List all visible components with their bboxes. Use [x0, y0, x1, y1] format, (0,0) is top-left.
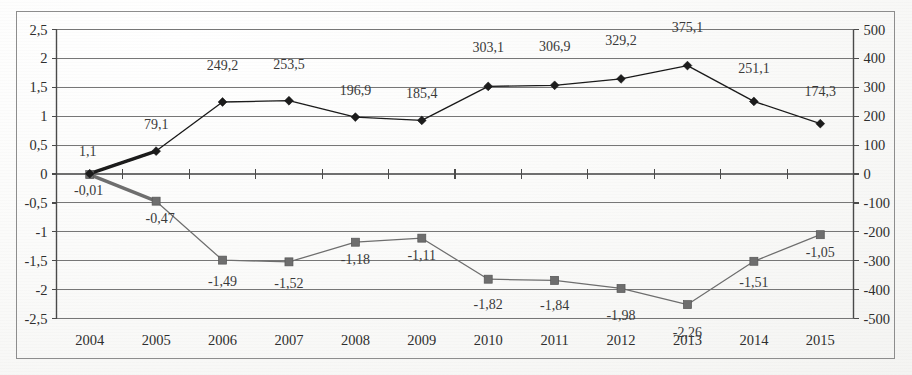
series-diamond-line	[90, 66, 821, 174]
series-square-line	[90, 175, 821, 305]
square-marker	[285, 258, 293, 266]
square-marker	[219, 256, 227, 264]
series-square-data-label: -1,82	[474, 297, 503, 312]
series-diamond-data-label: 329,2	[605, 33, 637, 48]
left-tick-label: 0	[40, 166, 47, 182]
series-square-data-label: -1,84	[540, 298, 569, 313]
series-diamond-data-label: 303,1	[472, 40, 504, 55]
x-axis-category-labels: 2004200520062007200820092010201120122013…	[75, 332, 835, 348]
right-tick-label: 500	[864, 22, 886, 38]
left-axis-ticks	[52, 30, 57, 319]
square-marker	[351, 238, 359, 246]
right-tick-label: 400	[864, 50, 886, 66]
diamond-marker	[550, 81, 559, 90]
right-tick-label: 100	[864, 137, 886, 153]
series-square-data-label: -1,05	[806, 245, 835, 260]
series-diamond-data-label: 196,9	[340, 83, 372, 98]
series-diamond-polyline	[156, 66, 820, 152]
square-marker	[484, 275, 492, 283]
diamond-marker	[218, 98, 227, 107]
diamond-marker	[484, 82, 493, 91]
diamond-marker	[285, 96, 294, 105]
line-chart: 2,521,510,50-0,5-1-1,5-2-2,5 50040030020…	[0, 0, 912, 375]
right-tick-label: -300	[864, 253, 891, 269]
series-diamond-data-label: 185,4	[406, 86, 438, 101]
right-tick-label: -400	[864, 282, 891, 298]
right-tick-label: -500	[864, 311, 891, 327]
left-tick-label: 2	[40, 50, 47, 66]
right-tick-label: 0	[864, 166, 871, 182]
diamond-marker	[816, 119, 825, 128]
left-tick-label: 1	[40, 108, 47, 124]
square-marker	[750, 257, 758, 265]
x-category-label: 2010	[474, 332, 503, 348]
x-category-label: 2011	[540, 332, 568, 348]
series-square-data-label: -0,47	[146, 211, 175, 226]
x-category-label: 2004	[75, 332, 105, 348]
diamond-marker	[683, 61, 692, 70]
series-diamond-data-labels: 1,179,1249,2253,5196,9185,4303,1306,9329…	[79, 20, 836, 159]
left-tick-label: 0,5	[29, 137, 47, 153]
left-tick-label: -2,5	[25, 311, 48, 327]
x-category-label: 2015	[806, 332, 835, 348]
square-marker	[418, 234, 426, 242]
right-tick-label: 200	[864, 108, 886, 124]
diamond-marker	[417, 116, 426, 125]
chart-container: 2,521,510,50-0,5-1-1,5-2-2,5 50040030020…	[0, 0, 912, 375]
left-tick-label: -1	[35, 224, 47, 240]
right-tick-label: -200	[864, 224, 891, 240]
series-square-data-label: -0,01	[74, 183, 103, 198]
series-diamond-data-label: 375,1	[672, 20, 704, 35]
right-axis-ticks	[854, 30, 859, 319]
right-tick-label: 300	[864, 79, 886, 95]
series-diamond-data-label: 251,1	[738, 61, 770, 76]
diamond-marker	[617, 74, 626, 83]
x-category-label: 2006	[208, 332, 237, 348]
x-category-label: 2008	[341, 332, 370, 348]
left-tick-label: 1,5	[29, 79, 47, 95]
square-marker	[551, 276, 559, 284]
series-diamond-data-label: 249,2	[207, 58, 239, 73]
left-tick-label: 2,5	[29, 22, 47, 38]
right-axis-tick-labels: 5004003002001000-100-200-300-400-500	[864, 22, 891, 327]
series-square-data-label: -1,18	[341, 252, 370, 267]
x-category-label: 2007	[274, 332, 303, 348]
x-category-label: 2012	[607, 332, 636, 348]
series-diamond-data-label: 306,9	[539, 39, 571, 54]
series-square-data-label: -1,52	[274, 276, 303, 291]
series-diamond-data-label: 174,3	[805, 84, 837, 99]
diamond-marker	[351, 113, 360, 122]
series-diamond-markers	[85, 61, 824, 178]
series-square-data-label: -1,11	[407, 248, 436, 263]
square-marker	[683, 301, 691, 309]
right-tick-label: -100	[864, 195, 891, 211]
left-tick-label: -2	[35, 282, 47, 298]
left-tick-label: -1,5	[25, 253, 48, 269]
diamond-marker	[749, 97, 758, 106]
series-diamond-data-label: 1,1	[79, 144, 97, 159]
square-marker	[816, 231, 824, 239]
square-marker	[617, 284, 625, 292]
left-axis-tick-labels: 2,521,510,50-0,5-1-1,5-2-2,5	[25, 22, 48, 327]
x-category-label: 2014	[739, 332, 769, 348]
left-tick-label: -0,5	[25, 195, 48, 211]
series-square-data-label: -1,49	[208, 274, 237, 289]
series-square-data-label: -1,51	[739, 275, 768, 290]
x-category-label: 2005	[142, 332, 171, 348]
x-category-label: 2009	[407, 332, 436, 348]
series-diamond-data-label: 79,1	[144, 117, 169, 132]
square-marker	[152, 197, 160, 205]
series-diamond-data-label: 253,5	[273, 57, 305, 72]
series-square-polyline	[90, 175, 821, 305]
series-square-data-label: -2,26	[673, 325, 702, 340]
series-square-data-label: -1,98	[606, 308, 635, 323]
